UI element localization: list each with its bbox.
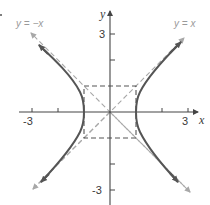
hyperbola-left-upper-arrow <box>39 45 48 54</box>
hyperbola-right-upper-arrow <box>170 42 181 53</box>
y-tick-label-neg3: -3 <box>92 184 102 196</box>
x-tick-label-3: 3 <box>182 115 188 127</box>
x-tick-label-neg3: -3 <box>23 115 33 127</box>
x-axis-label: x <box>198 113 205 127</box>
hyperbola-right-lower-arrow <box>170 173 178 182</box>
hyperbola-left-lower-arrow <box>41 174 49 182</box>
graph-canvas: y x 3 -3 -3 3 y = −x y = x <box>0 0 210 205</box>
asymptote-y-equals-neg-x-ext <box>110 112 190 192</box>
hyperbola-left-branch <box>39 45 84 182</box>
asymptote-label-x: y = x <box>173 18 196 29</box>
hyperbola-diagram: y x 3 -3 -3 3 y = −x y = x <box>0 0 210 205</box>
y-axis-label: y <box>99 7 106 21</box>
y-tick-label-3: 3 <box>99 28 105 40</box>
bullet-marker <box>0 14 2 16</box>
asymptote-label-neg-x: y = −x <box>15 18 44 29</box>
